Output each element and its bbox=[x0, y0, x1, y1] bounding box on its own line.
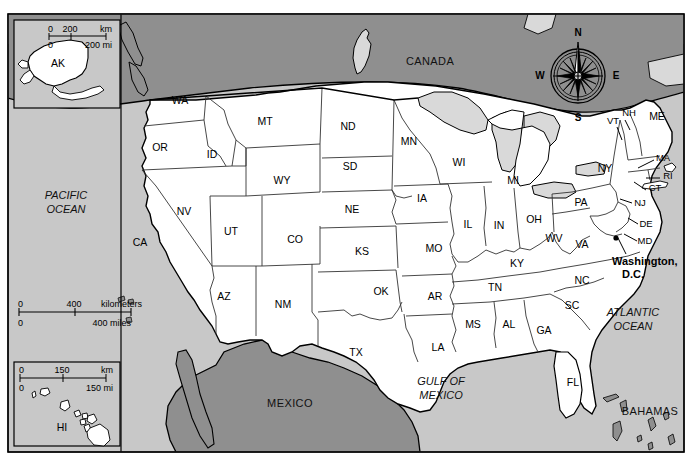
main-scale-km-mid: 400 bbox=[66, 299, 81, 309]
state-label-ga: GA bbox=[536, 324, 551, 336]
state-label-oh: OH bbox=[526, 213, 542, 225]
ak-scale-km-mid: 200 bbox=[62, 24, 77, 34]
us-reference-map: CANADA MEXICO BAHAMAS PACIFIC OCEAN ATLA… bbox=[0, 0, 692, 465]
state-label-wa: WA bbox=[172, 94, 189, 106]
label-gulf-of-mexico-line1: GULF OF bbox=[417, 375, 466, 387]
state-label-sd: SD bbox=[343, 160, 358, 172]
alaska-inset-label: AK bbox=[51, 57, 65, 69]
main-scale-mi-label: 400 miles bbox=[92, 318, 131, 328]
ak-scale-mi-label: 200 mi bbox=[85, 40, 112, 50]
state-label-ma: MA bbox=[656, 152, 671, 163]
compass-east-label: E bbox=[613, 70, 620, 81]
state-label-nm: NM bbox=[275, 298, 291, 310]
label-washington-dc-line2: D.C. bbox=[622, 268, 644, 280]
hi-scale-mi-zero: 0 bbox=[19, 383, 24, 393]
state-label-nv: NV bbox=[177, 205, 192, 217]
compass-south-label: S bbox=[575, 112, 582, 123]
state-label-ut: UT bbox=[224, 225, 239, 237]
state-label-de: DE bbox=[639, 218, 652, 229]
label-atlantic-ocean-line1: ATLANTIC bbox=[606, 306, 659, 318]
state-label-wy: WY bbox=[274, 174, 291, 186]
ak-scale-mi-zero: 0 bbox=[48, 40, 53, 50]
main-scale-mi-zero: 0 bbox=[18, 318, 23, 328]
state-label-nd: ND bbox=[340, 120, 356, 132]
state-label-mo: MO bbox=[426, 242, 443, 254]
state-label-la: LA bbox=[432, 341, 445, 353]
state-label-md: MD bbox=[638, 235, 653, 246]
label-atlantic-ocean-line2: OCEAN bbox=[613, 320, 652, 332]
state-label-ar: AR bbox=[428, 290, 443, 302]
state-label-me: ME bbox=[649, 110, 665, 122]
compass-west-label: W bbox=[535, 70, 545, 81]
state-label-co: CO bbox=[287, 233, 303, 245]
label-pacific-ocean-line2: OCEAN bbox=[46, 203, 85, 215]
hi-scale-km-unit: km bbox=[101, 365, 113, 375]
state-label-ia: IA bbox=[417, 192, 427, 204]
label-gulf-of-mexico-line2: MEXICO bbox=[419, 389, 463, 401]
alaska-inset: AK 0 200 km 0 200 mi bbox=[14, 20, 120, 108]
state-label-ne: NE bbox=[345, 203, 360, 215]
state-label-wi: WI bbox=[453, 156, 466, 168]
main-scale-km-zero: 0 bbox=[18, 299, 23, 309]
state-label-fl: FL bbox=[567, 376, 579, 388]
state-label-ok: OK bbox=[373, 285, 388, 297]
capital-dot bbox=[613, 235, 618, 240]
label-pacific-ocean-line1: PACIFIC bbox=[45, 189, 88, 201]
state-label-mi: MI bbox=[507, 174, 519, 186]
state-label-nh: NH bbox=[622, 107, 636, 118]
state-label-id: ID bbox=[207, 148, 218, 160]
label-washington-dc-line1: Washington, bbox=[612, 255, 678, 267]
state-label-nj: NJ bbox=[634, 197, 646, 208]
label-bahamas: BAHAMAS bbox=[622, 405, 679, 417]
hawaii-inset: 0 150 km 0 150 mi HI bbox=[14, 362, 120, 446]
map-canvas: CANADA MEXICO BAHAMAS PACIFIC OCEAN ATLA… bbox=[0, 0, 692, 465]
ak-scale-km-zero: 0 bbox=[48, 24, 53, 34]
state-label-mn: MN bbox=[401, 135, 417, 147]
state-label-al: AL bbox=[503, 318, 516, 330]
hi-scale-km-zero: 0 bbox=[19, 365, 24, 375]
state-label-vt: VT bbox=[607, 115, 619, 126]
hi-scale-km-mid: 150 bbox=[54, 365, 69, 375]
hawaii-inset-label: HI bbox=[57, 421, 68, 433]
label-canada: CANADA bbox=[406, 55, 455, 67]
state-label-ri: RI bbox=[663, 170, 673, 181]
state-label-ms: MS bbox=[465, 318, 481, 330]
hi-scale-mi-label: 150 mi bbox=[86, 383, 113, 393]
state-label-in: IN bbox=[494, 219, 505, 231]
state-label-ca: CA bbox=[133, 236, 148, 248]
state-label-mt: MT bbox=[257, 115, 273, 127]
state-label-pa: PA bbox=[574, 196, 587, 208]
state-label-tx: TX bbox=[349, 346, 362, 358]
state-label-ks: KS bbox=[355, 245, 369, 257]
main-scale-km-unit: kilometers bbox=[101, 299, 143, 309]
state-label-va: VA bbox=[575, 238, 588, 250]
state-label-tn: TN bbox=[488, 281, 502, 293]
state-label-nc: NC bbox=[574, 274, 590, 286]
state-label-ct: CT bbox=[649, 182, 662, 193]
label-mexico: MEXICO bbox=[267, 397, 313, 409]
ak-scale-km-unit: km bbox=[100, 24, 112, 34]
compass-north-label: N bbox=[574, 27, 581, 38]
state-label-az: AZ bbox=[217, 290, 231, 302]
state-label-il: IL bbox=[464, 218, 473, 230]
state-label-ky: KY bbox=[510, 257, 524, 269]
state-label-sc: SC bbox=[565, 299, 580, 311]
state-label-or: OR bbox=[152, 141, 168, 153]
state-label-ny: NY bbox=[598, 162, 613, 174]
state-label-wv: WV bbox=[546, 232, 563, 244]
